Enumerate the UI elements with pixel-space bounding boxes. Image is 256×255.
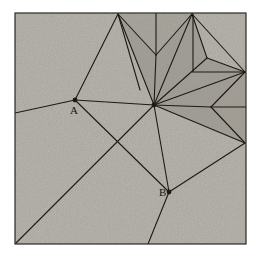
line-diagram-svg: AB — [0, 0, 256, 255]
figure-container: AB — [0, 0, 256, 255]
hub-center-dot — [152, 103, 157, 108]
label-A: A — [70, 104, 78, 116]
point-B-dot — [167, 190, 172, 195]
label-B: B — [159, 186, 166, 198]
point-A-dot — [73, 98, 78, 103]
